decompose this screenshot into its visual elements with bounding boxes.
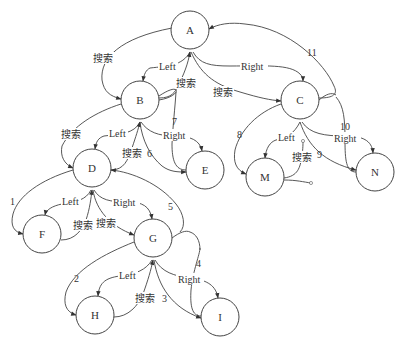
label-g-i-right: Right bbox=[178, 274, 200, 285]
label-c-m-left: Left bbox=[278, 132, 295, 143]
label-f-d-search: 搜索 bbox=[73, 219, 93, 231]
node-i: I bbox=[201, 298, 239, 336]
svg-text:H: H bbox=[91, 309, 99, 321]
edge-b-a-search bbox=[159, 52, 190, 98]
node-d: D bbox=[73, 149, 111, 187]
node-b: B bbox=[121, 81, 159, 119]
node-m: M bbox=[246, 158, 284, 196]
label-step-10: 10 bbox=[340, 121, 350, 132]
label-step-8: 8 bbox=[237, 129, 242, 140]
node-e: E bbox=[186, 151, 224, 189]
label-step-1: 1 bbox=[10, 196, 15, 207]
label-step-11: 11 bbox=[307, 47, 317, 58]
label-step-5: 5 bbox=[168, 201, 173, 212]
label-b-d-left: Left bbox=[109, 128, 126, 139]
svg-text:E: E bbox=[202, 164, 209, 176]
svg-text:A: A bbox=[186, 24, 194, 36]
label-b-a-search: 搜索 bbox=[176, 77, 196, 89]
svg-text:C: C bbox=[296, 94, 303, 106]
node-n: N bbox=[356, 153, 394, 191]
node-g: G bbox=[134, 219, 172, 257]
node-c: C bbox=[281, 81, 319, 119]
label-step-9: 9 bbox=[317, 149, 322, 160]
edge-a-c-search bbox=[191, 52, 281, 101]
edge-h-g-search bbox=[114, 260, 153, 317]
tree-diagram: 搜索 Left 搜索 Right 搜索 11 搜索 Left 搜索 6 7 Ri… bbox=[0, 0, 402, 344]
node-a: A bbox=[171, 11, 209, 49]
label-step-7: 7 bbox=[172, 116, 177, 127]
label-d-g-search: 搜索 bbox=[96, 217, 116, 229]
label-a-b-left: Left bbox=[159, 61, 176, 72]
label-c-n-right: Right bbox=[334, 133, 356, 144]
label-h-g-search: 搜索 bbox=[135, 292, 155, 304]
label-b-d-search: 搜索 bbox=[61, 128, 81, 140]
label-m-search: 搜索 bbox=[292, 151, 312, 163]
edge-b-loop bbox=[159, 89, 176, 100]
svg-text:F: F bbox=[39, 228, 45, 240]
label-d-b-search: 搜索 bbox=[122, 147, 142, 159]
label-step-6: 6 bbox=[147, 148, 152, 159]
edge-g-i-3 bbox=[154, 260, 201, 318]
svg-text:N: N bbox=[371, 166, 379, 178]
svg-text:M: M bbox=[260, 171, 270, 183]
label-step-2: 2 bbox=[74, 273, 79, 284]
edge-m-null bbox=[284, 180, 311, 183]
node-f: F bbox=[23, 215, 61, 253]
label-b-e-right: Right bbox=[163, 130, 185, 141]
label-a-b-search: 搜索 bbox=[93, 52, 113, 64]
node-h: H bbox=[76, 296, 114, 334]
label-a-c-right: Right bbox=[241, 61, 263, 72]
label-step-3: 3 bbox=[162, 293, 167, 304]
svg-text:I: I bbox=[218, 311, 222, 323]
svg-text:D: D bbox=[88, 162, 96, 174]
svg-text:B: B bbox=[136, 94, 143, 106]
label-d-f-left: Left bbox=[62, 196, 79, 207]
label-d-g-right: Right bbox=[113, 197, 135, 208]
label-g-h-left: Left bbox=[119, 270, 136, 281]
label-a-c-search: 搜索 bbox=[213, 86, 233, 98]
edge-g-loop bbox=[172, 231, 200, 250]
svg-text:G: G bbox=[149, 232, 157, 244]
label-step-4: 4 bbox=[196, 258, 201, 269]
